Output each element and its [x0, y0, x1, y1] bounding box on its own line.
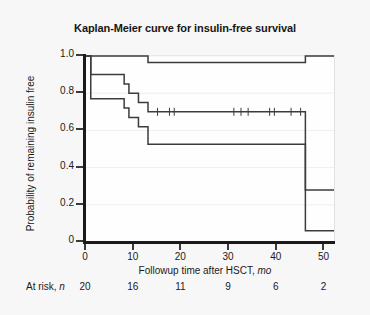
y-tick [76, 54, 83, 56]
x-tick-label: 50 [308, 251, 338, 262]
x-tick [132, 244, 134, 250]
x-tick [275, 244, 277, 250]
y-tick-label: 0 [44, 234, 74, 245]
at-risk-value: 2 [308, 281, 338, 292]
y-tick-label: 0.4 [44, 160, 74, 171]
x-tick [227, 244, 229, 250]
at-risk-label-text: At risk, [26, 281, 59, 292]
x-axis-label: Followup time after HSCT, mo [60, 265, 350, 276]
page-title: Kaplan-Meier curve for insulin-free surv… [0, 22, 370, 34]
y-tick-label: 0.2 [44, 197, 74, 208]
figure-card: Kaplan-Meier curve for insulin-free surv… [0, 0, 370, 315]
at-risk-value: 6 [261, 281, 291, 292]
x-axis-label-text: Followup time after HSCT, [139, 265, 258, 276]
y-tick [76, 240, 83, 242]
x-tick [84, 244, 86, 250]
y-tick-label: 0.8 [44, 85, 74, 96]
y-tick [76, 91, 83, 93]
y-tick-label: 0.6 [44, 122, 74, 133]
y-tick-label: 1.0 [44, 48, 74, 59]
x-tick-label: 30 [213, 251, 243, 262]
y-tick [76, 203, 83, 205]
x-tick-label: 40 [261, 251, 291, 262]
survival-curve-estimate [86, 56, 334, 190]
y-tick [76, 128, 83, 130]
kaplan-meier-plot [86, 56, 334, 242]
x-tick-label: 20 [165, 251, 195, 262]
x-tick [322, 244, 324, 250]
x-axis-line [83, 241, 335, 244]
x-axis-label-unit: mo [258, 265, 272, 276]
at-risk-value: 16 [118, 281, 148, 292]
at-risk-value: 11 [165, 281, 195, 292]
at-risk-row: At risk, n 201611962 [0, 281, 370, 295]
y-axis-line [83, 54, 86, 243]
survival-curve-upper-ci [86, 56, 334, 63]
at-risk-label: At risk, n [26, 281, 65, 292]
x-tick-label: 0 [70, 251, 100, 262]
x-tick [179, 244, 181, 250]
at-risk-value: 20 [70, 281, 100, 292]
at-risk-label-symbol: n [59, 281, 65, 292]
y-tick [76, 166, 83, 168]
plot-area [85, 55, 335, 243]
y-axis-label: Probability of remaining insulin free [25, 54, 36, 254]
x-tick-label: 10 [118, 251, 148, 262]
at-risk-value: 9 [213, 281, 243, 292]
